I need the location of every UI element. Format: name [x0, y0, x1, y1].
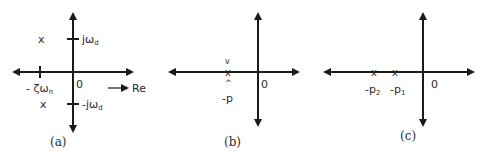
caption-b: (b)	[224, 135, 241, 149]
pole-marker-lower: x	[40, 98, 47, 111]
caption-c: (c)	[400, 129, 416, 143]
pole-marker-upper: x	[38, 33, 45, 46]
pole2-label: -p2	[365, 83, 380, 97]
imag-neg-label: -jωd	[82, 98, 103, 112]
pole-marker-p1: x	[392, 67, 398, 78]
double-pole-upper-mark: v	[225, 57, 230, 66]
panel-a: x x jωd -jωd 0 - ζωn Re (a)	[14, 14, 146, 149]
pole1-label: -p1	[390, 83, 405, 97]
double-pole-marker: x	[225, 67, 231, 78]
imag-pos-label: jωd	[81, 33, 99, 47]
pole-diagram: x x jωd -jωd 0 - ζωn Re (a) v x ^ -p 0 (…	[0, 0, 485, 154]
double-pole-lower-mark: ^	[225, 79, 232, 88]
origin-label: 0	[261, 78, 268, 91]
panel-c: x x -p2 -p1 0 (c)	[325, 14, 473, 143]
pole-marker-p2: x	[371, 67, 377, 78]
origin-label: 0	[431, 78, 438, 91]
panel-b: v x ^ -p 0 (b)	[170, 14, 298, 149]
real-tick-label: - ζωn	[26, 82, 53, 96]
pole-label: -p	[222, 92, 233, 105]
origin-label: 0	[76, 78, 83, 91]
caption-a: (a)	[50, 135, 67, 149]
real-axis-label: Re	[132, 82, 146, 95]
